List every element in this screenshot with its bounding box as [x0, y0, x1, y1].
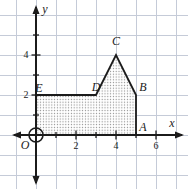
y-tick-label-2: 2 [24, 89, 29, 100]
x-tick-label-4: 4 [114, 140, 119, 151]
x-axis-label: x [168, 116, 175, 130]
point-label-C: C [112, 34, 121, 48]
point-label-D: D [91, 80, 101, 94]
x-tick-label-6: 6 [154, 140, 159, 151]
point-label-A: A [138, 120, 147, 134]
y-axis-label: y [41, 2, 48, 16]
y-tick-label-4: 4 [24, 49, 29, 60]
point-label-B: B [139, 80, 147, 94]
coordinate-plane: O E D C B A x y 24624 [0, 0, 188, 189]
point-label-O: O [21, 138, 30, 152]
polygon-OEDCBA [36, 55, 136, 135]
point-label-E: E [34, 81, 43, 95]
x-tick-label-2: 2 [74, 140, 79, 151]
